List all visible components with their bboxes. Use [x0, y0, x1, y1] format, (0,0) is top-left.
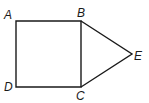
square-abcd	[16, 21, 81, 87]
figure-svg: A B C D E	[0, 0, 149, 103]
label-c: C	[76, 89, 85, 103]
label-b: B	[77, 6, 85, 20]
label-e: E	[134, 49, 143, 63]
label-d: D	[4, 80, 13, 94]
triangle-bce	[81, 21, 132, 87]
geometry-figure: A B C D E	[0, 0, 149, 103]
label-a: A	[3, 8, 12, 22]
